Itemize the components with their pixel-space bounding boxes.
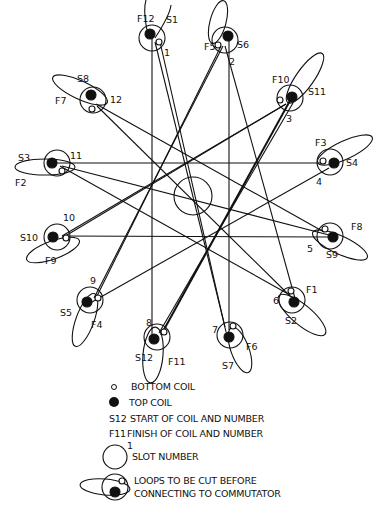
legend-top-coil: TOP COIL <box>128 397 173 408</box>
svg-text:S6: S6 <box>237 39 249 50</box>
svg-text:S11: S11 <box>308 86 326 97</box>
slot-2 <box>212 27 238 53</box>
cut-loops <box>15 0 376 384</box>
svg-text:F9: F9 <box>45 255 57 266</box>
slot-9 <box>77 287 103 313</box>
legend-start-symbol: S12 <box>109 413 127 424</box>
svg-text:S12: S12 <box>135 352 153 363</box>
svg-text:S1: S1 <box>166 14 178 25</box>
svg-text:1: 1 <box>127 440 133 451</box>
slot-10 <box>44 224 70 250</box>
svg-text:F7: F7 <box>55 95 67 106</box>
svg-text:8: 8 <box>146 317 152 328</box>
legend-slot-number: SLOT NUMBER <box>132 451 199 462</box>
legend-finish-desc: FINISH OF COIL AND NUMBER <box>127 428 263 439</box>
legend: BOTTOM COIL TOP COIL S12 START OF COIL A… <box>79 381 281 500</box>
svg-text:S4: S4 <box>346 157 358 168</box>
svg-text:S5: S5 <box>60 307 72 318</box>
svg-text:9: 9 <box>90 275 96 286</box>
svg-text:S3: S3 <box>18 152 30 163</box>
svg-text:4: 4 <box>316 176 322 187</box>
winding-diagram: 1 2 3 4 5 6 7 8 9 10 11 12 F12 S1 F5 S6 … <box>0 0 379 512</box>
legend-bottom-coil: BOTTOM COIL <box>131 381 196 392</box>
svg-text:6: 6 <box>273 295 279 306</box>
svg-text:11: 11 <box>70 150 82 161</box>
slot-12 <box>80 87 106 113</box>
svg-text:F3: F3 <box>315 137 327 148</box>
svg-text:2: 2 <box>229 56 235 67</box>
svg-text:1: 1 <box>164 47 170 58</box>
svg-text:F2: F2 <box>15 177 27 188</box>
svg-text:3: 3 <box>286 113 292 124</box>
svg-text:F1: F1 <box>306 284 318 295</box>
slot-4 <box>317 149 343 175</box>
legend-start-desc: START OF COIL AND NUMBER <box>130 413 265 424</box>
svg-text:S7: S7 <box>222 360 234 371</box>
svg-text:F4: F4 <box>91 319 103 330</box>
coil-labels: F12 S1 F5 S6 F10 S11 F3 S4 F8 S9 F1 S2 F… <box>15 13 363 371</box>
legend-loops-line2: CONNECTING TO COMMUTATOR <box>134 488 281 499</box>
bottom-coil-symbol <box>112 385 117 390</box>
svg-text:S2: S2 <box>285 315 297 326</box>
svg-text:S8: S8 <box>77 73 89 84</box>
slot-5 <box>317 223 343 249</box>
svg-text:12: 12 <box>110 94 122 105</box>
slot-6 <box>279 287 305 313</box>
svg-text:5: 5 <box>307 243 313 254</box>
slot-7 <box>217 322 243 348</box>
svg-text:F6: F6 <box>246 341 258 352</box>
svg-text:10: 10 <box>63 212 75 223</box>
svg-text:F10: F10 <box>272 74 290 85</box>
svg-text:F5: F5 <box>204 41 216 52</box>
top-coil-symbol <box>109 397 119 407</box>
svg-text:F8: F8 <box>351 221 363 232</box>
legend-loops-line1: LOOPS TO BE CUT BEFORE <box>134 475 257 486</box>
slot-symbol <box>103 445 127 469</box>
svg-text:7: 7 <box>212 324 218 335</box>
svg-text:S10: S10 <box>20 232 38 243</box>
legend-finish-symbol: F11 <box>109 428 126 439</box>
svg-text:S9: S9 <box>326 249 338 260</box>
loop-symbol <box>79 474 130 500</box>
svg-text:F12: F12 <box>137 13 155 24</box>
svg-text:F11: F11 <box>168 356 186 367</box>
